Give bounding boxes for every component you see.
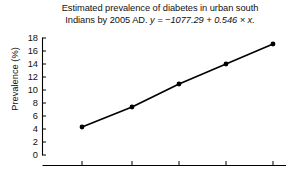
data-point [130, 105, 135, 110]
chart-figure: Estimated prevalence of diabetes in urba… [0, 0, 289, 170]
data-point [271, 42, 276, 47]
y-axis [43, 38, 47, 156]
plot-svg [0, 0, 289, 170]
plot-area: 18 16 14 12 10 8 6 4 2 0 [0, 0, 289, 170]
data-point [177, 82, 182, 87]
x-axis [43, 161, 287, 166]
data-point [224, 62, 229, 67]
data-point [80, 125, 85, 130]
